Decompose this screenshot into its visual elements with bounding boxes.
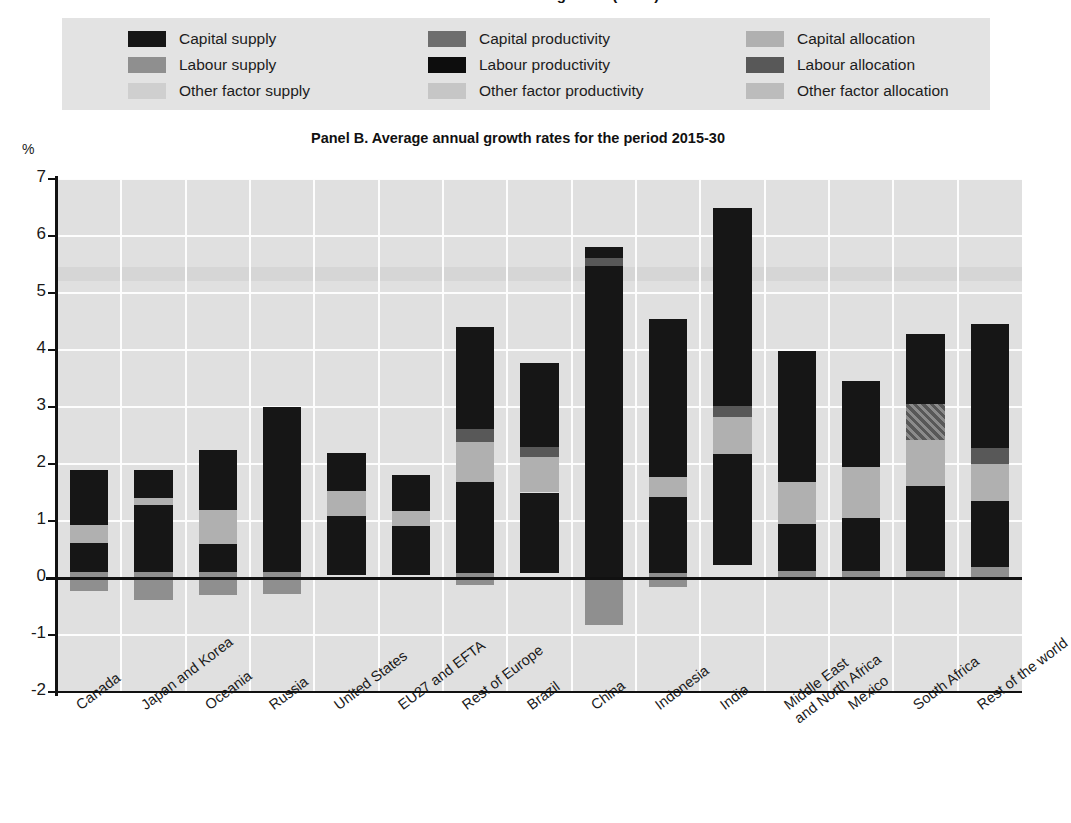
y-tick-mark [48,634,57,636]
bar-segment [70,543,109,573]
y-tick-mark [48,406,57,408]
bar-6[interactable] [392,179,431,692]
bar-15[interactable] [971,179,1010,692]
bar-13[interactable] [842,179,881,692]
bar-segment [906,334,945,404]
bar-segment [585,266,624,578]
bar-segment [456,327,495,428]
y-tick-label: 1 [4,509,46,529]
bar-segment [263,572,302,594]
y-tick-label: -2 [4,680,46,700]
gridline-vertical [699,179,701,692]
bar-segment [263,503,302,573]
y-axis-line [55,176,58,696]
bar-segment [520,447,559,457]
y-tick-label: 6 [4,224,46,244]
bar-segment [585,578,624,625]
y-tick-mark [48,178,57,180]
bar-2[interactable] [134,179,173,692]
bar-segment [649,319,688,477]
bar-segment [906,486,945,572]
bar-segment [778,482,817,524]
gridline-vertical [185,179,187,692]
bar-segment [971,324,1010,448]
gridline-vertical [892,179,894,692]
y-tick-label: 5 [4,281,46,301]
bar-segment [327,453,366,492]
bar-segment [778,351,817,482]
y-tick-label: 0 [4,566,46,586]
bar-segment [713,417,752,453]
bar-segment [520,493,559,574]
bar-segment [456,429,495,443]
bar-11[interactable] [713,179,752,692]
y-tick-mark [48,520,57,522]
bar-segment [392,526,431,576]
bar-12[interactable] [778,179,817,692]
bar-segment [134,498,173,505]
bar-segment [842,381,881,467]
bar-8[interactable] [520,179,559,692]
bar-segment [971,464,1010,501]
bar-segment [134,505,173,572]
bar-segment [70,525,109,543]
bar-segment [842,467,881,518]
bar-segment [327,516,366,575]
bar-segment [713,208,752,406]
bar-segment [392,475,431,510]
bar-segment [649,477,688,498]
y-tick-mark [48,292,57,294]
bar-segment [971,448,1010,464]
bar-5[interactable] [327,179,366,692]
bar-10[interactable] [649,179,688,692]
bar-segment [649,573,688,586]
plot-canvas [57,179,1022,692]
y-tick-label: 3 [4,395,46,415]
bar-segment [585,258,624,266]
bar-segment [713,454,752,566]
gridline-vertical [828,179,830,692]
zero-line [46,577,1022,580]
bar-1[interactable] [70,179,109,692]
gridline-vertical [957,179,959,692]
bar-segment [971,501,1010,567]
bar-segment [263,407,302,503]
bar-segment [778,524,817,571]
gridline-vertical [506,179,508,692]
bar-segment [327,491,366,516]
bar-segment [906,404,945,440]
gridline-vertical [120,179,122,692]
y-tick-label: 7 [4,167,46,187]
bar-9[interactable] [585,179,624,692]
bar-segment [199,450,238,510]
y-tick-mark [48,691,57,693]
bar-segment [649,497,688,573]
bar-segment [392,511,431,526]
gridline-vertical [571,179,573,692]
y-tick-label: -1 [4,623,46,643]
bar-segment [520,457,559,492]
bar-segment [906,440,945,486]
bar-segment [456,482,495,573]
bar-segment [199,544,238,573]
y-tick-label: 2 [4,452,46,472]
gridline-vertical [313,179,315,692]
gridline-vertical [442,179,444,692]
bar-segment [199,572,238,595]
bar-segment [520,363,559,447]
bar-4[interactable] [263,179,302,692]
bar-7[interactable] [456,179,495,692]
y-tick-mark [48,463,57,465]
y-axis-labels: 76543210-1-2 [0,0,46,823]
bar-segment [456,442,495,482]
gridline-vertical [378,179,380,692]
bar-14[interactable] [906,179,945,692]
gridline-vertical [764,179,766,692]
y-tick-mark [48,235,57,237]
bar-segment [70,470,109,525]
bar-segment [199,510,238,544]
y-tick-label: 4 [4,338,46,358]
bar-3[interactable] [199,179,238,692]
bar-segment [842,518,881,571]
